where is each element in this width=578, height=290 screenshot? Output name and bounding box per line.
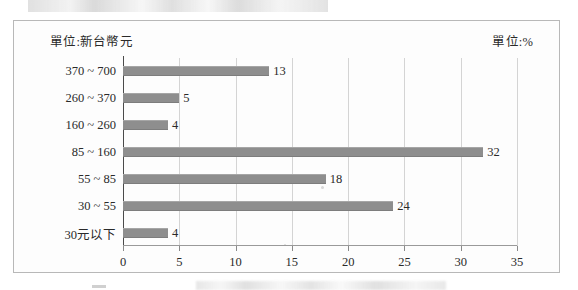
bar-value-label: 18 (330, 171, 343, 186)
gridline (517, 58, 518, 246)
tick-mark (292, 246, 293, 251)
cropped-heading-text-artifact (28, 0, 328, 12)
bar-row: 260 ~ 3705 (123, 85, 517, 112)
x-tick-label: 15 (286, 255, 299, 270)
unit-label-left: 單位:新台幣元 (50, 31, 133, 50)
bar-value-label: 4 (172, 225, 178, 240)
bar-value-label: 4 (172, 118, 178, 133)
bar (123, 120, 168, 130)
x-tick-label: 35 (511, 255, 524, 270)
bar (123, 201, 393, 211)
category-label: 370 ~ 700 (65, 64, 116, 79)
tick-mark (348, 246, 349, 251)
x-tick-label: 0 (120, 255, 126, 270)
tick-mark (461, 246, 462, 251)
bar-row: 85 ~ 16032 (123, 139, 517, 166)
x-tick-label: 20 (342, 255, 355, 270)
tick-mark (517, 246, 518, 251)
cropped-caption-text-artifact (196, 281, 446, 290)
unit-label-right: 單位:% (492, 31, 533, 50)
bar (123, 147, 483, 157)
bar (123, 93, 179, 103)
scan-speckle (321, 186, 324, 189)
x-tick-label: 30 (454, 255, 467, 270)
bar-row: 160 ~ 2604 (123, 112, 517, 139)
tick-mark (404, 246, 405, 251)
tick-mark (236, 246, 237, 251)
bar-row: 55 ~ 8518 (123, 165, 517, 192)
bar (123, 174, 326, 184)
x-tick-label: 10 (229, 255, 242, 270)
bar (123, 66, 269, 76)
category-label: 30元以下 (65, 223, 117, 242)
bar-value-label: 13 (273, 64, 286, 79)
category-label: 55 ~ 85 (78, 171, 116, 186)
bar-value-label: 5 (183, 91, 189, 106)
x-tick-label: 5 (176, 255, 182, 270)
scan-speckle (284, 244, 286, 246)
bar-row: 30 ~ 5524 (123, 192, 517, 219)
bar-value-label: 32 (487, 144, 500, 159)
category-label: 85 ~ 160 (72, 144, 116, 159)
bar-row: 30元以下4 (123, 219, 517, 246)
bar-value-label: 24 (397, 198, 410, 213)
bar (123, 228, 168, 238)
cropped-caption-dash-artifact (92, 285, 106, 288)
category-label: 160 ~ 260 (65, 118, 116, 133)
tick-mark (123, 246, 124, 251)
category-label: 260 ~ 370 (65, 91, 116, 106)
plot-area: 370 ~ 70013260 ~ 3705160 ~ 260485 ~ 1603… (123, 58, 517, 246)
x-tick-label: 25 (398, 255, 411, 270)
tick-mark (179, 246, 180, 251)
chart-frame: 單位:新台幣元 單位:% 370 ~ 70013260 ~ 3705160 ~ … (13, 20, 560, 273)
bar-row: 370 ~ 70013 (123, 58, 517, 85)
category-label: 30 ~ 55 (78, 198, 116, 213)
